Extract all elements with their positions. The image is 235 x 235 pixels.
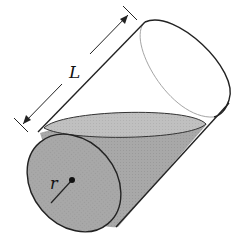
cylinder-diagram: L r	[0, 0, 235, 235]
radius-label: r	[50, 174, 59, 193]
back-ellipse-visible-edge	[145, 20, 230, 117]
center-point	[69, 177, 75, 183]
length-label: L	[68, 62, 80, 82]
cylinder-diagram-svg: L r	[0, 0, 235, 235]
back-ellipse-hidden-edge	[140, 22, 214, 117]
